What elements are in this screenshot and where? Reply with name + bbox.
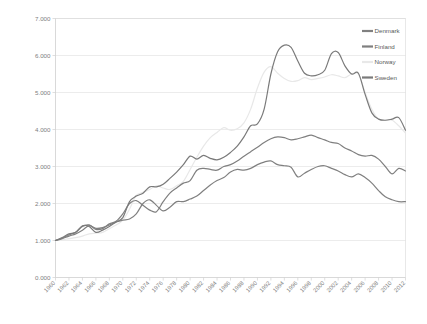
x-axis-tick-label: 1960	[43, 280, 56, 293]
x-axis-tick-label: 2000	[312, 280, 325, 293]
x-axis-tick-label: 1978	[164, 280, 177, 293]
line-chart: 7.0006.0005.0004.0003.0002.0001.0000.000…	[0, 0, 427, 324]
y-axis-tick-label: 2.000	[35, 200, 51, 207]
y-axis-tick-label: 0.000	[35, 274, 51, 281]
plot-border	[56, 19, 406, 278]
x-axis-tick-label: 1972	[124, 280, 137, 293]
x-axis-tick-label: 2004	[339, 279, 353, 293]
y-axis-tick-label: 5.000	[35, 89, 51, 96]
series-line-finland	[56, 135, 406, 240]
x-axis-tick-label: 1976	[151, 280, 164, 293]
x-axis-tick-label: 2008	[366, 280, 379, 293]
legend-label-norway: Norway	[375, 58, 397, 65]
series-line-denmark	[56, 161, 406, 241]
x-axis-tick-label: 1994	[272, 279, 286, 293]
x-axis-tick-label: 1986	[218, 280, 231, 293]
x-axis-tick-label: 1980	[177, 280, 190, 293]
x-axis-tick-label: 1982	[191, 280, 204, 293]
x-axis-tick-label: 2002	[326, 280, 339, 293]
x-axis-tick-label: 1968	[97, 280, 110, 293]
y-axis-tick-label: 7.000	[35, 15, 51, 22]
gridlines	[56, 19, 406, 241]
x-axis-tick-label: 2012	[393, 280, 406, 293]
x-axis-tick-label: 1996	[285, 280, 298, 293]
legend-label-denmark: Denmark	[375, 27, 401, 34]
y-axis-tick-label: 6.000	[35, 52, 51, 59]
x-axis-tick-label: 1970	[110, 280, 123, 293]
x-axis-tick-label: 1990	[245, 280, 258, 293]
x-axis-tick-label: 1962	[56, 280, 69, 293]
x-axis-tick-label: 1966	[83, 280, 96, 293]
chart-container: 7.0006.0005.0004.0003.0002.0001.0000.000…	[0, 0, 427, 324]
chart-plot-area: 7.0006.0005.0004.0003.0002.0001.0000.000…	[0, 0, 427, 324]
x-axis-tick-label: 1964	[70, 279, 84, 293]
x-axis-tick-label: 1988	[231, 280, 244, 293]
x-axis-tick-label: 1992	[258, 280, 271, 293]
plot-frame	[56, 19, 406, 278]
y-axis-tick-label: 4.000	[35, 126, 51, 133]
y-axis-tick-label: 1.000	[35, 237, 51, 244]
legend-label-finland: Finland	[375, 43, 396, 50]
x-axis-tick-label: 2010	[379, 280, 392, 293]
x-axis: 1960196219641966196819701972197419761978…	[43, 278, 406, 294]
x-axis-tick-label: 1984	[204, 279, 218, 293]
series-line-sweden	[56, 45, 406, 241]
x-axis-tick-label: 1974	[137, 279, 151, 293]
legend-label-sweden: Sweden	[375, 74, 398, 81]
chart-legend: DenmarkFinlandNorwaySweden	[362, 27, 401, 81]
y-axis: 7.0006.0005.0004.0003.0002.0001.0000.000	[35, 15, 55, 281]
x-axis-tick-label: 1998	[299, 280, 312, 293]
x-axis-tick-label: 2006	[352, 280, 365, 293]
series-lines	[56, 45, 406, 241]
y-axis-tick-label: 3.000	[35, 163, 51, 170]
